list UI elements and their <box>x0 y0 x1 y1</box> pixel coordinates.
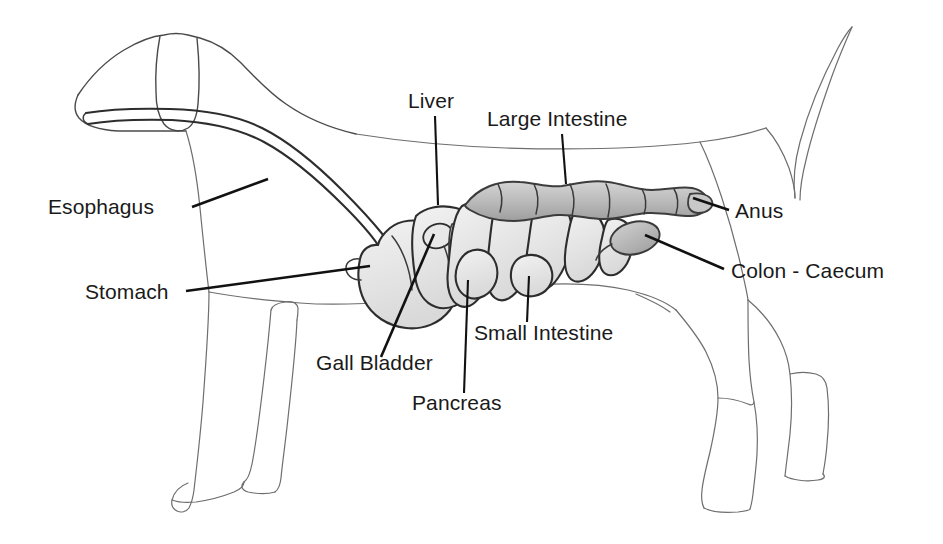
dog-rump-line <box>766 128 795 198</box>
dog-front-paw-far <box>242 482 275 494</box>
label-liver[interactable]: Liver <box>408 89 454 112</box>
dog-hind-paw-far <box>785 474 824 481</box>
leader-line-stomach <box>186 266 370 291</box>
dog-ear-outline <box>156 36 199 131</box>
leader-line-liver <box>435 116 438 205</box>
label-gall-bladder[interactable]: Gall Bladder <box>316 351 433 374</box>
dog-hind-paw-near <box>704 508 750 512</box>
dog-hind-leg-far-back <box>790 373 829 475</box>
dog-front-shoulder-far <box>271 302 298 320</box>
dog-back-line <box>356 128 766 149</box>
organ-large-intestine <box>465 181 712 221</box>
label-large-intestine[interactable]: Large Intestine <box>487 107 627 130</box>
dog-hind-leg-far <box>748 300 792 476</box>
anatomy-diagram: Esophagus Liver Large Intestine Anus Col… <box>0 0 943 544</box>
dog-front-leg-near <box>172 292 209 512</box>
label-colon-caecum[interactable]: Colon - Caecum <box>731 259 884 282</box>
label-small-intestine[interactable]: Small Intestine <box>474 321 613 344</box>
leader-line-colon-caecum <box>645 235 724 269</box>
dog-head-outline <box>78 34 356 135</box>
label-anus[interactable]: Anus <box>735 199 783 222</box>
dog-front-leg-far-back <box>244 310 271 482</box>
dog-tail-underside <box>800 27 852 200</box>
label-esophagus[interactable]: Esophagus <box>48 195 154 218</box>
leader-line-large-intestine <box>562 134 566 184</box>
small-intestine-loop-4 <box>565 211 604 282</box>
dog-hind-hock-near <box>718 398 754 405</box>
leader-line-esophagus <box>192 179 268 207</box>
label-pancreas[interactable]: Pancreas <box>412 391 502 414</box>
dog-throat-chest-line <box>186 131 209 292</box>
label-stomach[interactable]: Stomach <box>85 280 169 303</box>
dog-anatomy-illustration: Esophagus Liver Large Intestine Anus Col… <box>0 0 943 544</box>
dog-hind-leg-near <box>676 310 718 508</box>
dog-front-leg-far <box>275 320 297 492</box>
small-intestine-loop-6 <box>456 250 498 299</box>
small-intestine-loop-7 <box>511 255 552 296</box>
